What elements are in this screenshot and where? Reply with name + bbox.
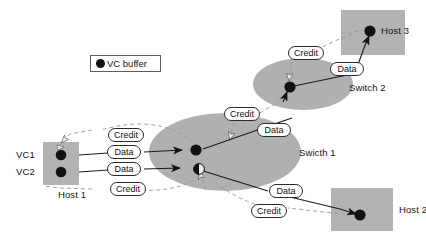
data-path-switch1-switch2-b: [286, 118, 292, 120]
legend-label: VC buffer: [107, 59, 147, 69]
filled-circle-icon: [96, 59, 105, 68]
edge-label-data-switch1-switch2: Data: [257, 123, 291, 137]
buffer-host2-vc1: [354, 209, 365, 220]
edge-label-credit-host2-switch1: Credit: [251, 204, 287, 218]
node-label-switch1: Swicth 1: [299, 148, 336, 158]
buffer-host1-vc2: [56, 167, 67, 178]
edge-label-credit-host1-switch1-bottom: Credit: [110, 182, 146, 196]
edge-label-data-vc1-switch1: Data: [107, 145, 141, 159]
edge-label-credit-switch2-host3: Credit: [288, 46, 324, 60]
edge-label-data-switch1-host2: Data: [269, 184, 303, 198]
diagram-canvas: VC buffer Host 1 Swicth 1 Switch 2 Host …: [0, 0, 426, 235]
legend-box: VC buffer: [90, 55, 161, 72]
edge-label-credit-host1-switch1-top: Credit: [108, 128, 144, 142]
vc-label-vc2: VC2: [16, 167, 35, 177]
node-label-host1: Host 1: [58, 190, 86, 200]
node-label-host3: Host 3: [381, 26, 409, 36]
buffer-host1-vc1: [56, 150, 67, 161]
node-label-switch2: Switch 2: [349, 83, 386, 93]
vc-label-vc1: VC1: [16, 150, 35, 160]
edge-label-credit-switch1-switch2: Credit: [224, 107, 260, 121]
node-label-host2: Host 2: [399, 205, 426, 215]
data-path-host1vc2-switch1: [79, 170, 108, 172]
buffer-switch1-vc1: [190, 144, 201, 155]
buffer-host3-vc1: [364, 25, 375, 36]
data-path-host1vc1-switch1: [79, 153, 108, 155]
edge-label-data-vc2-switch1: Data: [107, 162, 141, 176]
credit-path-into-host1-vc1: [62, 130, 92, 142]
edge-label-data-switch2-host3: Data: [330, 62, 364, 76]
buffer-switch2-vc1: [284, 81, 295, 92]
